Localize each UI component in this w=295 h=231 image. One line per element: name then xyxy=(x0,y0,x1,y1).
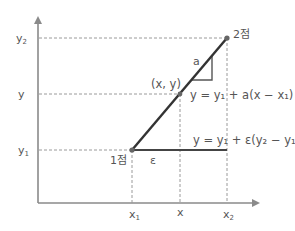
y-label: y xyxy=(18,88,25,101)
y2-label: y2 xyxy=(16,32,27,46)
y1-label: y1 xyxy=(18,144,29,158)
linear-interpolation-diagram: y2 y y1 x1 x x2 2점 1점 (x, y) a ε y = y₁ … xyxy=(0,0,295,231)
midpoint-label: (x, y) xyxy=(151,77,181,91)
epsilon-equation: y = y₁ + ε(y₂ − y₁) xyxy=(193,133,295,147)
interpolation-equation: y = y₁ + a(x − x₁) xyxy=(190,88,293,102)
x2-label: x2 xyxy=(223,208,234,222)
point-2-label: 2점 xyxy=(233,28,250,41)
point-mid xyxy=(178,92,183,97)
point-1 xyxy=(129,147,134,152)
slope-label: a xyxy=(193,55,200,68)
epsilon-label: ε xyxy=(150,154,156,167)
x1-label: x1 xyxy=(129,208,140,222)
x-label: x xyxy=(177,206,184,219)
point-2 xyxy=(224,35,229,40)
point-1-label: 1점 xyxy=(110,154,127,167)
